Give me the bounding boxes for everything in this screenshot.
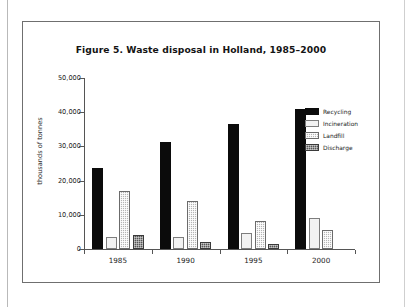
chart-plot-area: thousands of tonnes 010,00020,00030,0004… xyxy=(23,22,381,284)
x-axis-tick-mark xyxy=(220,250,221,254)
figure-container: Figure 5. Waste disposal in Holland, 198… xyxy=(22,21,380,283)
legend-item-incineration: Incineration xyxy=(305,118,381,129)
bar-discharge-1990 xyxy=(200,242,211,249)
x-axis-tick-mark xyxy=(355,250,356,254)
legend-swatch-landfill xyxy=(305,132,319,139)
x-axis-tick-label: 1995 xyxy=(244,256,262,265)
legend-item-discharge: Discharge xyxy=(305,142,381,153)
legend-swatch-incineration xyxy=(305,120,319,127)
y-axis-tick-label: 0 xyxy=(37,245,81,253)
bar-discharge-1985 xyxy=(133,235,144,249)
legend-label: Discharge xyxy=(323,145,353,151)
y-axis-tick-label: 40,000 xyxy=(37,108,81,116)
x-axis-tick-mark xyxy=(152,250,153,254)
chart-legend: RecyclingIncinerationLandfillDischarge xyxy=(305,106,381,154)
x-axis-tick-mark xyxy=(84,250,85,254)
bar-series-layer xyxy=(84,78,355,249)
legend-item-recycling: Recycling xyxy=(305,106,381,117)
bar-incineration-1990 xyxy=(173,237,184,249)
bar-incineration-1985 xyxy=(106,237,117,249)
y-axis-tick-mark xyxy=(79,215,84,216)
bar-incineration-1995 xyxy=(241,233,252,249)
bar-discharge-1995 xyxy=(268,244,279,249)
legend-swatch-recycling xyxy=(305,108,319,115)
bar-recycling-1985 xyxy=(92,168,103,249)
y-axis-tick-mark xyxy=(79,181,84,182)
y-axis-tick-label: 10,000 xyxy=(37,211,81,219)
legend-swatch-discharge xyxy=(305,144,319,151)
bar-landfill-1995 xyxy=(255,221,266,249)
bar-recycling-1995 xyxy=(228,124,239,249)
x-axis-tick-mark xyxy=(287,250,288,254)
legend-label: Landfill xyxy=(323,133,344,139)
bar-recycling-1990 xyxy=(160,142,171,249)
bar-incineration-2000 xyxy=(309,218,320,249)
y-axis-tick-label: 20,000 xyxy=(37,177,81,185)
page-edge-right-rule xyxy=(404,0,405,307)
page-edge-left-rule xyxy=(7,0,8,307)
x-axis-tick-label: 1990 xyxy=(176,256,194,265)
y-axis-tick-mark xyxy=(79,146,84,147)
y-axis-tick-label: 50,000 xyxy=(37,74,81,82)
x-axis-tick-label: 2000 xyxy=(312,256,330,265)
bar-landfill-1990 xyxy=(187,201,198,249)
y-axis-tick-mark xyxy=(79,112,84,113)
y-axis-tick-mark xyxy=(79,78,84,79)
bar-landfill-2000 xyxy=(322,230,333,249)
y-axis-tick-labels: 010,00020,00030,00040,00050,000 xyxy=(37,75,81,249)
bar-landfill-1985 xyxy=(119,191,130,249)
y-axis-tick-label: 30,000 xyxy=(37,142,81,150)
x-axis-tick-label: 1985 xyxy=(109,256,127,265)
legend-label: Incineration xyxy=(323,121,358,127)
x-axis-tick-labels: 1985199019952000 xyxy=(84,256,355,270)
legend-item-landfill: Landfill xyxy=(305,130,381,141)
legend-label: Recycling xyxy=(323,109,351,115)
